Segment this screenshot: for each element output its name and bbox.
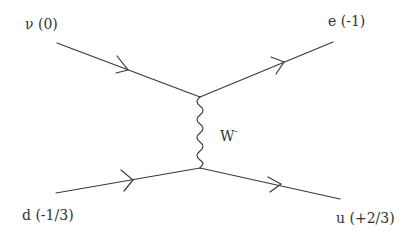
neutrino-arrow-icon: [116, 56, 128, 73]
w-boson-charge: -: [234, 126, 237, 136]
electron-line: [200, 42, 333, 97]
down-quark-label: d (-1/3): [22, 208, 74, 222]
neutrino-label: ν (0): [25, 17, 58, 31]
diagram-lines: [0, 0, 415, 238]
up-quark-line: [200, 168, 340, 199]
w-boson-wavy-line: [197, 97, 203, 168]
down-quark-line: [56, 168, 200, 193]
feynman-diagram: ν (0) e (-1) d (-1/3) u (+2/3) W-: [0, 0, 415, 238]
electron-label: e (-1): [328, 14, 365, 28]
up-quark-label: u (+2/3): [336, 211, 395, 225]
w-boson-symbol: W: [220, 128, 234, 144]
w-boson-label: W-: [220, 128, 237, 143]
